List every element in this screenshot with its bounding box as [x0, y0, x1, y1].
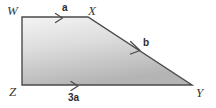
trapezoid-figure — [0, 0, 216, 108]
vertex-label-w: W — [7, 4, 18, 17]
side-label-diagonal: b — [143, 38, 149, 48]
vertex-label-y: Y — [196, 86, 203, 99]
side-label-bottom: 3a — [68, 93, 79, 103]
side-label-top: a — [62, 3, 68, 13]
trapezoid-shape — [22, 17, 192, 85]
vertex-label-x: X — [88, 4, 96, 17]
diagram-canvas: W X Y Z a b 3a — [0, 0, 216, 108]
vertex-label-z: Z — [9, 85, 16, 98]
